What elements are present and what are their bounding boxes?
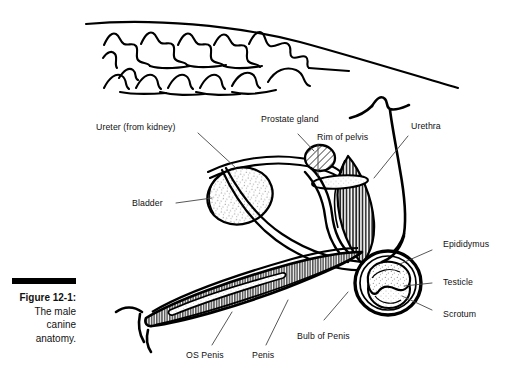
label-ureter: Ureter (from kidney) [96, 121, 176, 132]
leader-urethra [374, 136, 408, 178]
leader-penis [266, 300, 288, 345]
label-epididymus: Epididymus [443, 238, 489, 249]
label-rim-of-pelvis: Rim of pelvis [317, 131, 368, 142]
label-os-penis: OS Penis [186, 349, 224, 360]
figure-caption: Figure 12-1: The male canine anatomy. [0, 278, 82, 345]
leader-ureter [198, 133, 236, 168]
label-bladder: Bladder [132, 197, 163, 208]
caption-text: Figure 12-1: The male canine anatomy. [0, 291, 82, 345]
caption-rule [12, 278, 76, 284]
caption-line-3: anatomy. [4, 332, 76, 346]
prepuce-outline [116, 308, 151, 353]
leader-prostate [298, 134, 314, 151]
leader-os-penis [212, 312, 232, 345]
label-testicle: Testicle [443, 276, 473, 287]
leader-bulb-of-penis [324, 292, 348, 320]
prostate-gland [305, 145, 335, 171]
label-penis: Penis [252, 349, 274, 360]
caption-line-2: canine [4, 318, 76, 332]
label-scrotum: Scrotum [443, 308, 476, 319]
label-bulb-of-penis: Bulb of Penis [297, 330, 350, 341]
label-prostate-gland: Prostate gland [261, 113, 319, 124]
caption-number: Figure 12-1: [4, 291, 76, 305]
figure-canvas: Ureter (from kidney) Prostate gland Rim … [0, 0, 524, 382]
caption-line-1: The male [4, 305, 76, 319]
label-urethra: Urethra [411, 120, 441, 131]
spine-vertebrae [86, 22, 458, 95]
